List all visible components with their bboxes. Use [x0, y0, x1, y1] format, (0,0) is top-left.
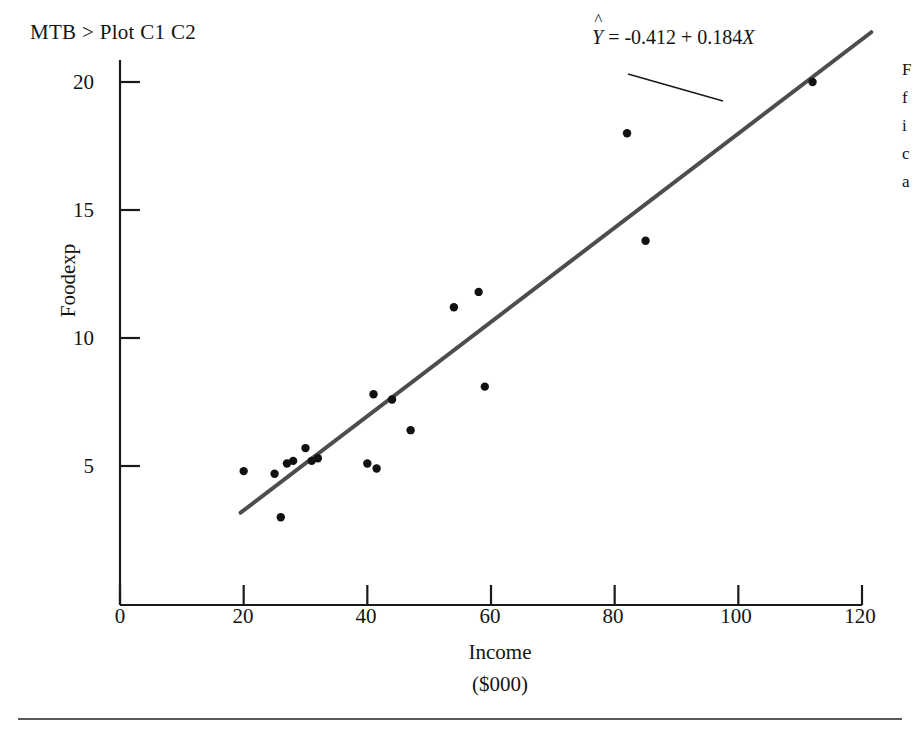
- data-point-group: [239, 78, 816, 522]
- data-point: [277, 513, 285, 521]
- margin-caption-line-2: f: [902, 84, 920, 112]
- data-point: [406, 426, 414, 434]
- data-point: [301, 444, 309, 452]
- x-axis-ticks: [120, 585, 862, 605]
- data-point: [369, 390, 377, 398]
- data-point: [641, 237, 649, 245]
- data-point: [372, 464, 380, 472]
- margin-caption-fragment: F f i c a: [902, 56, 920, 196]
- data-point: [388, 395, 396, 403]
- data-point: [474, 288, 482, 296]
- data-point: [808, 78, 816, 86]
- margin-caption-line-1: F: [902, 56, 920, 84]
- data-point: [314, 454, 322, 462]
- data-point: [450, 303, 458, 311]
- margin-caption-line-5: a: [902, 168, 920, 196]
- data-point: [623, 129, 631, 137]
- data-point: [270, 469, 278, 477]
- data-point: [363, 459, 371, 467]
- margin-caption-line-4: c: [902, 140, 920, 168]
- data-point: [481, 382, 489, 390]
- page-bottom-rule: [18, 718, 902, 720]
- data-point: [289, 457, 297, 465]
- y-axis-ticks: [120, 82, 140, 466]
- margin-caption-line-3: i: [902, 112, 920, 140]
- annotation-leader-line: [628, 74, 723, 101]
- figure-container: MTB > Plot C1 C2 ^Y = -0.412 + 0.184X Fo…: [0, 0, 920, 730]
- data-point: [239, 467, 247, 475]
- regression-fit-line: [241, 32, 872, 512]
- scatter-plot-canvas: [0, 0, 920, 730]
